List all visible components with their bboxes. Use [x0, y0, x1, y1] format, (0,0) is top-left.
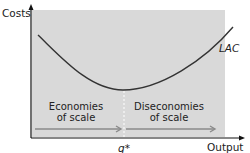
- diseconomies-label-line2: of scale: [150, 112, 189, 123]
- lac-diagram: Costs Output LAC q* Economies of scale D…: [0, 0, 250, 153]
- x-axis-label: Output: [207, 141, 243, 153]
- curve-label: LAC: [219, 42, 240, 54]
- diseconomies-label-line1: Diseconomies: [134, 101, 204, 112]
- economies-label-line2: of scale: [57, 112, 96, 123]
- x-axis-arrow-icon: [239, 136, 245, 141]
- y-axis-label: Costs: [2, 7, 31, 19]
- economies-label-line1: Economies: [49, 101, 103, 112]
- qstar-label: q*: [118, 142, 130, 153]
